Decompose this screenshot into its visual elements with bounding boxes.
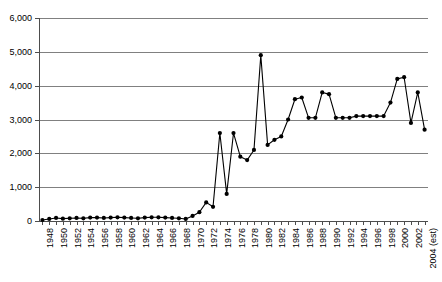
- data-point: [368, 114, 372, 118]
- data-point: [395, 77, 399, 81]
- data-point: [88, 216, 92, 220]
- data-point: [259, 53, 263, 57]
- data-point: [122, 216, 126, 220]
- data-point: [231, 131, 235, 135]
- data-point: [361, 114, 365, 118]
- data-point: [163, 216, 167, 220]
- data-point: [136, 216, 140, 220]
- data-point: [334, 116, 338, 120]
- data-point: [409, 121, 413, 125]
- data-point: [40, 218, 44, 222]
- data-point: [177, 216, 181, 220]
- data-point: [286, 117, 290, 121]
- data-point: [61, 217, 65, 221]
- data-point: [252, 148, 256, 152]
- data-point: [81, 216, 85, 220]
- data-point: [375, 114, 379, 118]
- data-point: [382, 114, 386, 118]
- data-point: [422, 128, 426, 132]
- data-point: [150, 215, 154, 219]
- data-point: [402, 75, 406, 79]
- series-line: [42, 55, 424, 220]
- data-point: [218, 131, 222, 135]
- data-point: [347, 116, 351, 120]
- data-point: [129, 216, 133, 220]
- data-point: [245, 158, 249, 162]
- data-point: [354, 114, 358, 118]
- data-point: [74, 216, 78, 220]
- data-point: [68, 216, 72, 220]
- data-point: [54, 216, 58, 220]
- data-point: [320, 90, 324, 94]
- data-point: [204, 200, 208, 204]
- data-point: [341, 116, 345, 120]
- data-point: [238, 155, 242, 159]
- data-point: [225, 192, 229, 196]
- data-point: [170, 216, 174, 220]
- data-point: [197, 210, 201, 214]
- data-point: [47, 217, 51, 221]
- data-point: [156, 215, 160, 219]
- data-point: [279, 134, 283, 138]
- data-point: [272, 138, 276, 142]
- data-point: [190, 214, 194, 218]
- data-point: [416, 90, 420, 94]
- data-point: [211, 205, 215, 209]
- data-point: [388, 100, 392, 104]
- data-point: [184, 217, 188, 221]
- data-point: [293, 97, 297, 101]
- data-point: [143, 216, 147, 220]
- line-chart: 01,0002,0003,0004,0005,0006,000 19481950…: [0, 0, 442, 282]
- data-point: [109, 216, 113, 220]
- data-point: [95, 216, 99, 220]
- data-series: [0, 0, 442, 282]
- data-point: [102, 216, 106, 220]
- data-point: [266, 143, 270, 147]
- data-point: [327, 92, 331, 96]
- data-point: [306, 116, 310, 120]
- data-point: [300, 95, 304, 99]
- data-point: [313, 116, 317, 120]
- data-point: [115, 215, 119, 219]
